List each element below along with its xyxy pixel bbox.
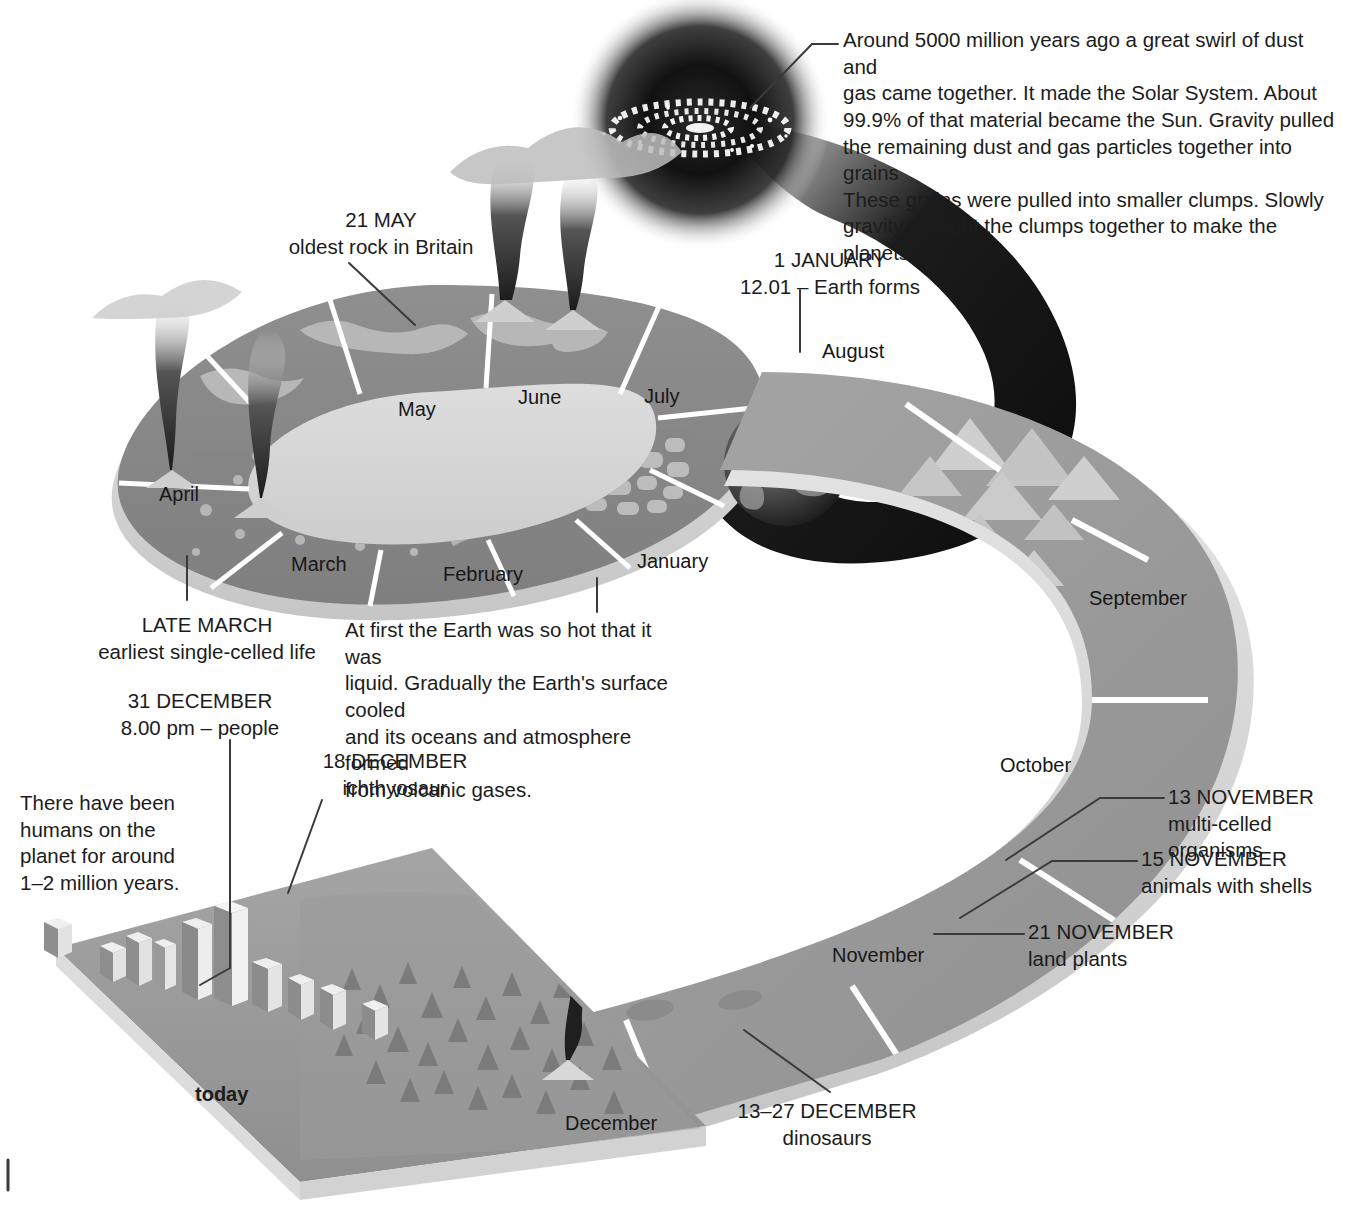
- earth-forms-note: 1 JANUARY 12.01 – Earth forms: [720, 247, 940, 300]
- humans-duration-note: There have been humans on the planet for…: [20, 790, 210, 897]
- earliest-life-note: LATE MARCH earliest single-celled life: [82, 612, 332, 665]
- month-label-november: November: [832, 942, 924, 968]
- land-plants-note: 21 NOVEMBER land plants: [1028, 919, 1228, 972]
- month-label-march: March: [291, 551, 347, 577]
- sun-sphere: [570, 0, 830, 250]
- oldest-rock-note: 21 MAY oldest rock in Britain: [256, 207, 506, 260]
- dinosaurs-note: 13–27 DECEMBER dinosaurs: [722, 1098, 932, 1151]
- month-label-february: February: [443, 561, 523, 587]
- animals-with-shells-note: 15 NOVEMBER animals with shells: [1141, 846, 1341, 899]
- solar-system-formation-note: Around 5000 million years ago a great sw…: [843, 27, 1343, 267]
- mountain-range: [770, 580, 1042, 840]
- infographic-canvas: Around 5000 million years ago a great sw…: [0, 0, 1359, 1209]
- today-label: today: [195, 1081, 248, 1107]
- month-label-may: May: [398, 396, 436, 422]
- ichthyosaur-note: 18 DECEMBER ichthyosaur: [300, 748, 490, 801]
- month-label-june: June: [518, 384, 561, 410]
- people-appear-note: 31 DECEMBER 8.00 pm – people: [75, 688, 325, 741]
- month-label-december: December: [565, 1110, 657, 1136]
- month-label-september: September: [1089, 585, 1187, 611]
- month-label-august: August: [822, 338, 884, 364]
- month-label-july: July: [644, 383, 680, 409]
- month-label-october: October: [1000, 752, 1071, 778]
- month-label-april: April: [159, 481, 199, 507]
- month-label-january: January: [637, 548, 708, 574]
